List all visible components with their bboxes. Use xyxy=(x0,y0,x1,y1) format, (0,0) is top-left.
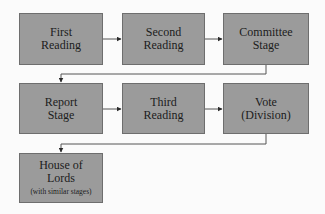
arrow-committee-to-report xyxy=(61,65,266,82)
node-committee-stage: Committee Stage xyxy=(223,13,309,65)
node-report-stage: Report Stage xyxy=(19,83,103,134)
node-label-line2: Stage xyxy=(253,39,280,52)
node-label-line2: Reading xyxy=(144,109,184,122)
node-second-reading: Second Reading xyxy=(122,13,205,65)
node-label-line2: Lords xyxy=(47,172,75,185)
arrow-vote-to-lords xyxy=(61,134,266,152)
node-label-line1: Third xyxy=(150,96,177,109)
node-label-line2: Reading xyxy=(144,39,184,52)
node-third-reading: Third Reading xyxy=(122,83,205,134)
node-note: (with similar stages) xyxy=(30,187,91,197)
node-label-line2: Stage xyxy=(48,109,75,122)
node-label-line1: Vote xyxy=(255,96,277,109)
node-label-line1: Report xyxy=(45,96,78,109)
node-first-reading: First Reading xyxy=(19,13,103,65)
node-vote-division: Vote (Division) xyxy=(223,83,309,134)
node-house-of-lords: House of Lords (with similar stages) xyxy=(19,153,103,203)
node-label-line2: (Division) xyxy=(241,109,290,122)
node-label-line2: Reading xyxy=(41,39,81,52)
